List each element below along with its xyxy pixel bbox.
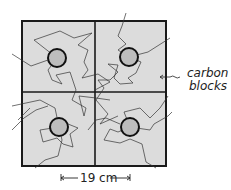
fuel-rod-top-right bbox=[120, 48, 138, 66]
fuel-rod-bottom-left bbox=[50, 118, 68, 136]
dimension-label: 19 cm bbox=[80, 171, 117, 185]
carbon-block-diagram bbox=[0, 0, 231, 190]
carbon-blocks-label: carbon blocks bbox=[187, 67, 228, 93]
label-line-2: blocks bbox=[187, 80, 228, 93]
fuel-rod-top-left bbox=[48, 49, 66, 67]
carbon-block-grid bbox=[22, 21, 166, 166]
fuel-rod-bottom-right bbox=[121, 118, 139, 136]
